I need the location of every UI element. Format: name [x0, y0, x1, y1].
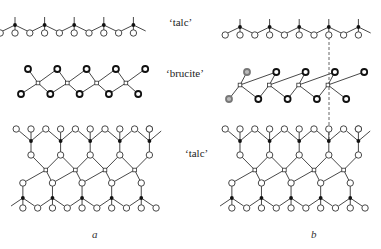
oxygen-atom: [296, 152, 302, 158]
bond: [61, 131, 73, 141]
hydroxyl-atom: [18, 91, 24, 97]
bond: [279, 198, 291, 206]
oxygen-atom: [123, 205, 129, 211]
bond: [309, 198, 321, 206]
oxygen-atom: [57, 126, 63, 132]
bond: [23, 170, 46, 183]
oxygen-atom: [237, 32, 243, 38]
oxygen-atom: [12, 30, 18, 36]
silicon-atom: [80, 196, 84, 200]
silicon-atom: [268, 139, 272, 143]
silicon-atom: [297, 25, 301, 29]
bond: [261, 170, 284, 183]
oxygen-atom: [229, 205, 235, 211]
silicon-atom: [319, 196, 323, 200]
hydroxyl-atom: [226, 96, 232, 102]
octahedral-cation: [95, 81, 99, 85]
hydroxyl-atom: [84, 66, 90, 72]
oxygen-atom: [281, 32, 287, 38]
silicon-atom: [327, 139, 331, 143]
oxygen-atom: [266, 152, 272, 158]
octahedral-cation: [297, 83, 301, 87]
silicon-atom: [132, 23, 136, 27]
oxygen-atom: [79, 205, 85, 211]
hydroxyl-atom: [106, 91, 112, 97]
bond: [78, 131, 90, 141]
oxygen-atom: [108, 180, 114, 186]
bond: [120, 131, 132, 141]
silicon-atom: [29, 139, 33, 143]
silicon-atom: [260, 196, 264, 200]
panel-label-a: a: [92, 228, 98, 240]
hydroxyl-atom: [113, 66, 119, 72]
hydroxyl-atom: [25, 66, 31, 72]
octahedral-cation: [44, 168, 48, 172]
oxygen-atom: [362, 205, 368, 211]
octahedral-cation: [103, 168, 107, 172]
bond: [138, 131, 150, 141]
bond: [149, 131, 161, 141]
octahedral-cation: [342, 168, 346, 172]
bond: [350, 198, 362, 206]
silicon-atom: [327, 25, 331, 29]
bond: [90, 131, 102, 141]
oxygen-atom: [222, 126, 228, 132]
hydroxyl-atom: [255, 96, 261, 102]
bond: [250, 198, 262, 206]
bond: [261, 198, 273, 206]
silicon-atom: [357, 139, 361, 143]
silicon-atom: [59, 139, 63, 143]
silicon-atom: [110, 196, 114, 200]
oxygen-atom: [237, 126, 243, 132]
oxygen-atom: [326, 126, 332, 132]
oxygen-atom: [87, 152, 93, 158]
octahedral-cation: [312, 168, 316, 172]
oxygen-atom: [326, 32, 332, 38]
bonds-layer: [3, 17, 371, 208]
oxygen-atom: [317, 180, 323, 186]
oxygen-atom: [311, 32, 317, 38]
oxygen-atom: [340, 126, 346, 132]
oxygen-atom: [258, 205, 264, 211]
oxygen-atom: [64, 205, 70, 211]
hydroxyl-atom: [47, 91, 53, 97]
bond: [240, 131, 252, 141]
oxygen-atom: [86, 30, 92, 36]
bond: [11, 198, 23, 206]
bond: [291, 170, 314, 183]
oxygen-atom: [49, 180, 55, 186]
bond: [52, 198, 64, 206]
hydroxyl-atom: [244, 69, 250, 75]
octahedral-cation: [253, 168, 257, 172]
bond: [232, 198, 244, 206]
silicon-atom: [238, 139, 242, 143]
octahedral-cation: [124, 81, 128, 85]
bond: [299, 131, 311, 141]
oxygen-atom: [56, 30, 62, 36]
oxygen-atom: [347, 205, 353, 211]
structure-diagram: [0, 0, 381, 249]
oxygen-atom: [311, 126, 317, 132]
silicon-atom: [357, 25, 361, 29]
hydroxyl-atom: [77, 91, 83, 97]
bond: [258, 131, 270, 141]
silicon-atom: [13, 23, 17, 27]
hydroxyl-atom: [135, 91, 141, 97]
octahedral-cation: [326, 83, 330, 87]
oxygen-atom: [138, 180, 144, 186]
silicon-atom: [43, 23, 47, 27]
bond: [52, 170, 75, 183]
bond: [108, 131, 120, 141]
oxygen-atom: [222, 32, 228, 38]
oxygen-atom: [146, 126, 152, 132]
bond: [291, 198, 303, 206]
label-brucite: ‘brucite’: [166, 67, 204, 79]
bond: [82, 170, 105, 183]
oxygen-atom: [28, 126, 34, 132]
bond: [100, 198, 112, 206]
silicon-atom: [297, 139, 301, 143]
oxygen-atom: [252, 126, 258, 132]
bond: [347, 131, 359, 141]
oxygen-atom: [317, 205, 323, 211]
bond: [129, 198, 141, 206]
